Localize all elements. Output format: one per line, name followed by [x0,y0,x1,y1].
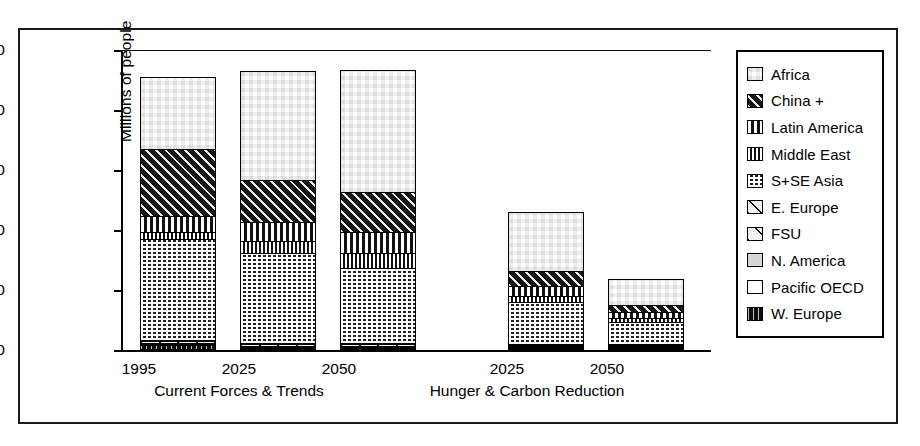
plot-area: Millions of people 1,000 800 600 400 200… [121,50,711,352]
xtick-label-2050-hunger: 2050 [552,360,662,378]
legend-label-china: China + [771,92,824,109]
ytick-1000 [114,50,123,52]
segment-s-se-asia [141,239,215,340]
legend-item-africa[interactable]: Africa [747,61,874,88]
legend-swatch-fsu-icon [747,227,763,241]
ytick-label-200: 200 [0,282,5,298]
xtick-label-2025-hunger: 2025 [452,360,562,378]
legend-swatch-pacific-oecd-icon [747,280,763,294]
legend-label-s-se-asia: S+SE Asia [771,172,843,189]
bar-2050-hunger[interactable] [608,279,684,350]
bar-1995-current[interactable] [140,77,216,350]
ytick-400 [114,230,123,232]
segment-china [341,192,415,232]
legend-label-e-europe: E. Europe [771,199,839,216]
ytick-label-600: 600 [0,162,5,178]
segment-china [609,305,683,312]
segment-middle-east [141,232,215,239]
legend-item-latin-america[interactable]: Latin America [747,114,874,141]
legend: Africa China + Latin America Middle East… [736,50,884,338]
segment-middle-east [241,241,315,253]
segment-latin-america [509,286,583,296]
segment-w-europe [609,348,683,349]
legend-swatch-africa-icon [747,67,763,81]
legend-label-w-europe: W. Europe [771,305,842,322]
segment-latin-america [241,222,315,241]
ytick-label-400: 400 [0,222,5,238]
segment-w-europe [141,345,215,349]
ytick-200 [114,290,123,292]
legend-item-s-se-asia[interactable]: S+SE Asia [747,167,874,194]
segment-w-europe [509,348,583,349]
segment-s-se-asia [341,268,415,343]
group-label-current-forces: Current Forces & Trends [134,382,344,400]
legend-label-middle-east: Middle East [771,146,850,163]
ytick-0 [114,350,123,352]
segment-s-se-asia [241,253,315,343]
group-label-hunger-carbon: Hunger & Carbon Reduction [402,382,652,400]
legend-swatch-n-america-icon [747,253,763,267]
legend-swatch-middle-east-icon [747,147,763,161]
legend-item-e-europe[interactable]: E. Europe [747,194,874,221]
legend-swatch-e-europe-icon [747,200,763,214]
legend-swatch-china-icon [747,94,763,108]
ytick-label-1000: 1,000 [0,42,5,58]
segment-africa [509,213,583,271]
legend-item-pacific-oecd[interactable]: Pacific OECD [747,274,874,301]
legend-label-latin-america: Latin America [771,119,863,136]
legend-swatch-s-se-asia-icon [747,174,763,188]
bar-2025-current[interactable] [240,71,316,350]
segment-africa [241,72,315,180]
segment-latin-america [341,232,415,253]
legend-item-middle-east[interactable]: Middle East [747,141,874,168]
chart-figure: Millions of people 1,000 800 600 400 200… [18,28,898,424]
segment-africa [341,71,415,192]
segment-china [141,149,215,216]
legend-item-china[interactable]: China + [747,88,874,115]
segment-china [241,180,315,222]
xtick-label-2050-current: 2050 [284,360,394,378]
legend-swatch-w-europe-icon [747,307,763,321]
segment-africa [609,280,683,305]
segment-latin-america [141,216,215,232]
xtick-label-2025-current: 2025 [184,360,294,378]
bar-2050-current[interactable] [340,70,416,350]
segment-china [509,271,583,286]
segment-s-se-asia [609,322,683,344]
ytick-label-0: 0 [0,342,5,358]
legend-label-pacific-oecd: Pacific OECD [771,279,864,296]
segment-w-europe [341,348,415,349]
xtick-label-1995-current: 1995 [84,360,194,378]
legend-item-w-europe[interactable]: W. Europe [747,300,874,327]
y-axis-title: Millions of people [117,20,135,142]
ytick-800 [114,110,123,112]
ytick-600 [114,170,123,172]
legend-item-fsu[interactable]: FSU [747,221,874,248]
legend-label-fsu: FSU [771,225,801,242]
segment-middle-east [341,253,415,268]
legend-label-africa: Africa [771,66,810,83]
legend-swatch-latin-america-icon [747,120,763,134]
segment-s-se-asia [509,302,583,344]
legend-item-n-america[interactable]: N. America [747,247,874,274]
gridline-1000 [123,50,711,51]
segment-w-europe [241,348,315,349]
legend-label-n-america: N. America [771,252,845,269]
ytick-label-800: 800 [0,102,5,118]
segment-africa [141,78,215,149]
bar-2025-hunger[interactable] [508,212,584,350]
